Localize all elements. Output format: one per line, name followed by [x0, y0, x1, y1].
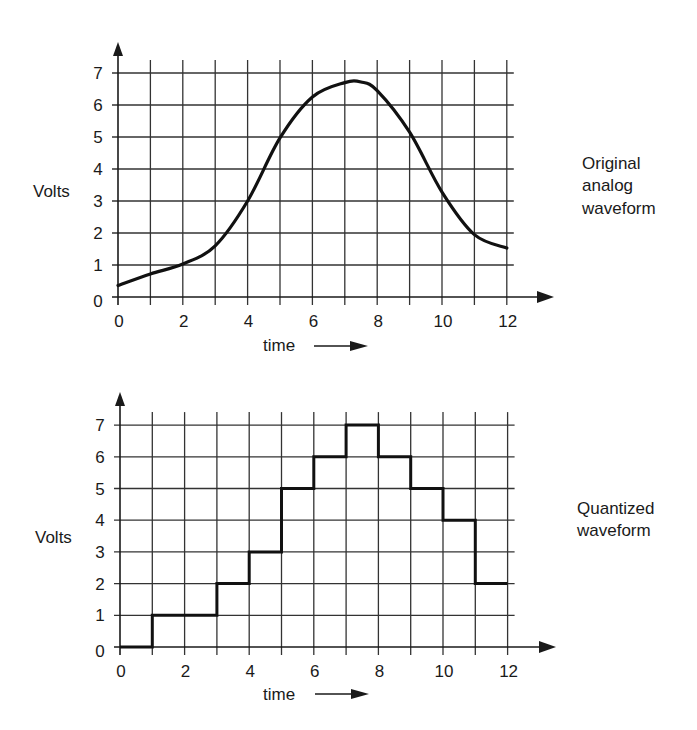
caption-line: Quantized — [577, 499, 655, 518]
x-tick-label: 8 — [373, 312, 382, 331]
chart-caption: Original analog waveform — [581, 154, 656, 218]
x-tick-label: 10 — [434, 312, 453, 331]
x-axis-label-group: time — [263, 685, 369, 704]
y-tick-label: 7 — [93, 64, 102, 83]
caption-line: waveform — [581, 199, 656, 218]
x-tick-label: 10 — [435, 662, 454, 681]
y-tick-label: 5 — [93, 128, 102, 147]
y-tick-label: 2 — [93, 224, 102, 243]
waveform-figure: 01234567 024681012 Volts time Original a… — [0, 0, 697, 730]
y-tick-label: 7 — [95, 416, 104, 435]
x-tick-label: 12 — [498, 312, 517, 331]
y-axis-arrow-icon — [115, 392, 125, 406]
x-tick-label: 4 — [244, 312, 253, 331]
y-tick-label: 0 — [93, 292, 102, 311]
x-tick-label: 0 — [116, 662, 125, 681]
y-tick-labels: 01234567 — [93, 64, 102, 311]
chart-caption: Quantized waveform — [576, 499, 655, 540]
x-tick-label: 6 — [310, 662, 319, 681]
x-tick-label: 2 — [181, 662, 190, 681]
caption-line: waveform — [576, 521, 651, 540]
y-tick-label: 1 — [93, 256, 102, 275]
analog-waveform-chart: 01234567 024681012 Volts time Original a… — [33, 42, 656, 355]
x-tick-label: 8 — [375, 662, 384, 681]
y-tick-label: 2 — [95, 575, 104, 594]
y-tick-label: 4 — [95, 511, 104, 530]
y-tick-label: 0 — [95, 642, 104, 661]
x-axis-arrow-icon — [539, 641, 556, 653]
x-tick-label: 0 — [114, 312, 123, 331]
x-tick-label: 6 — [309, 312, 318, 331]
caption-line: analog — [582, 176, 633, 195]
x-tick-labels: 024681012 — [114, 312, 517, 331]
y-tick-label: 3 — [93, 192, 102, 211]
y-tick-labels: 01234567 — [95, 416, 104, 661]
x-axis-label-group: time — [263, 336, 368, 355]
x-tick-label: 4 — [245, 662, 254, 681]
y-tick-label: 6 — [95, 448, 104, 467]
x-axis-label: time — [263, 685, 295, 704]
y-tick-label: 4 — [93, 160, 102, 179]
y-tick-label: 3 — [95, 543, 104, 562]
grid — [114, 412, 515, 655]
y-tick-label: 1 — [95, 606, 104, 625]
y-axis-label: Volts — [35, 528, 72, 547]
caption-line: Original — [582, 154, 641, 173]
x-axis-label: time — [263, 336, 295, 355]
x-tick-label: 12 — [499, 662, 518, 681]
x-tick-label: 2 — [179, 312, 188, 331]
x-axis-arrow-icon — [537, 291, 554, 303]
y-axis-arrow-icon — [113, 42, 123, 56]
y-tick-label: 5 — [95, 480, 104, 499]
time-arrow-icon — [315, 689, 369, 699]
y-tick-label: 6 — [93, 96, 102, 115]
quantized-waveform-chart: 01234567 024681012 Volts time Quantized … — [35, 392, 655, 704]
x-tick-labels: 024681012 — [116, 662, 518, 681]
y-axis-label: Volts — [33, 182, 70, 201]
time-arrow-icon — [314, 341, 368, 351]
